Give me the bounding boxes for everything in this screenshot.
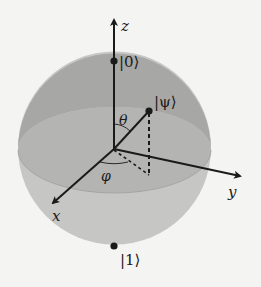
state-one-point [110,242,117,249]
theta-label: θ [119,112,128,128]
x-axis-label: x [52,207,61,225]
y-axis-label: y [227,183,237,201]
state-one-label: |1⟩ [120,251,140,269]
phi-label: φ [101,168,111,184]
state-psi-label: |ψ⟩ [154,93,177,111]
state-zero-label: |0⟩ [119,53,139,71]
state-zero-point [110,57,117,64]
state-psi-point [145,107,152,114]
bloch-sphere-diagram: z x y |0⟩ |1⟩ |ψ⟩ θ φ [0,0,261,287]
z-axis-label: z [120,17,129,35]
